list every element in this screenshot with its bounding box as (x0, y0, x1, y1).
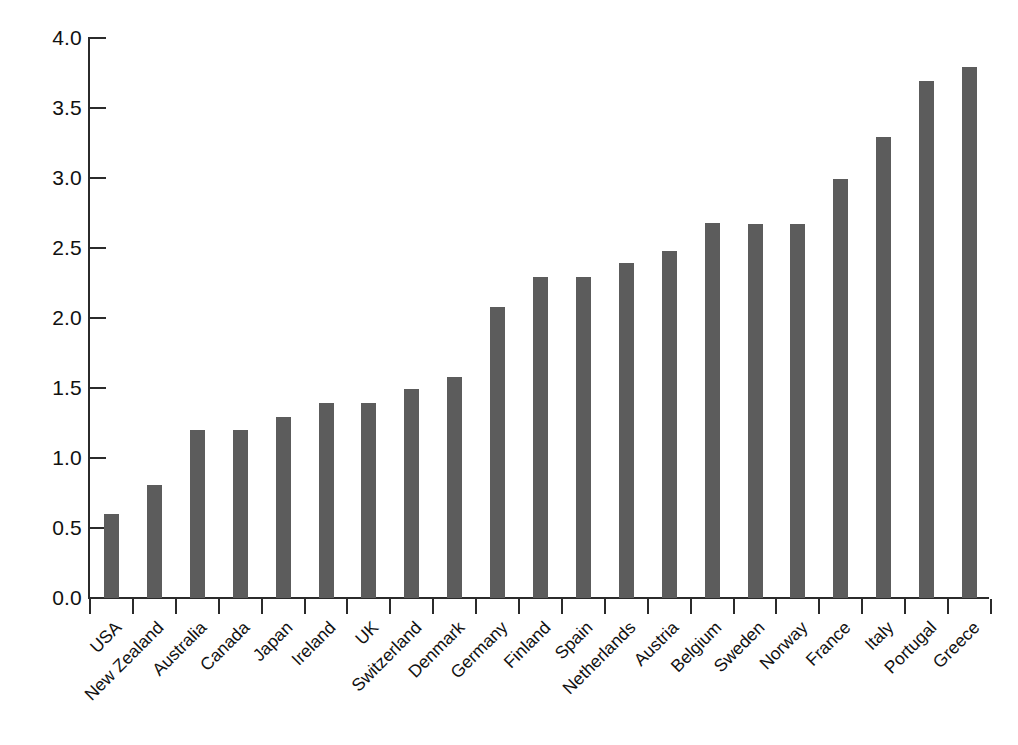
x-tick-mark (647, 599, 649, 614)
bar (276, 417, 291, 598)
bar (833, 179, 848, 598)
bar-chart: 0.00.51.01.52.02.53.03.54.0 USANew Zeala… (0, 0, 1018, 745)
y-tick-label: 3.0 (36, 167, 82, 188)
x-tick-mark (990, 599, 992, 614)
bar (876, 137, 891, 598)
bar (233, 430, 248, 598)
y-tick-mark (89, 457, 106, 459)
y-tick-label: 1.5 (36, 377, 82, 398)
y-tick-label: 2.5 (36, 237, 82, 258)
x-tick-mark (818, 599, 820, 614)
x-tick-mark (432, 599, 434, 614)
x-tick-mark (518, 599, 520, 614)
y-tick-label: 1.0 (36, 447, 82, 468)
bar (619, 263, 634, 598)
y-tick-label: 4.0 (36, 27, 82, 48)
bar (447, 377, 462, 598)
bar (662, 251, 677, 598)
x-tick-mark (604, 599, 606, 614)
x-tick-mark (218, 599, 220, 614)
x-tick-mark (733, 599, 735, 614)
y-tick-mark (89, 317, 106, 319)
x-tick-mark (904, 599, 906, 614)
y-tick-mark (89, 247, 106, 249)
bar (533, 277, 548, 598)
y-tick-label: 3.5 (36, 97, 82, 118)
x-tick-mark (304, 599, 306, 614)
x-tick-mark (561, 599, 563, 614)
y-tick-mark (89, 387, 106, 389)
bar (190, 430, 205, 598)
bar (705, 223, 720, 598)
y-tick-label: 0.0 (36, 587, 82, 608)
bar (361, 403, 376, 598)
x-tick-mark (132, 599, 134, 614)
bar (404, 389, 419, 598)
y-tick-label: 2.0 (36, 307, 82, 328)
bar (962, 67, 977, 598)
bar (919, 81, 934, 598)
y-tick-mark (89, 107, 106, 109)
x-tick-mark (775, 599, 777, 614)
x-tick-mark (861, 599, 863, 614)
x-tick-mark (947, 599, 949, 614)
x-tick-mark (389, 599, 391, 614)
x-tick-mark (346, 599, 348, 614)
y-tick-mark (89, 177, 106, 179)
bar (790, 224, 805, 598)
x-tick-mark (89, 599, 91, 614)
x-tick-mark (261, 599, 263, 614)
x-tick-mark (175, 599, 177, 614)
y-tick-label: 0.5 (36, 517, 82, 538)
x-tick-mark (690, 599, 692, 614)
bar (748, 224, 763, 598)
bar (490, 307, 505, 598)
x-tick-mark (475, 599, 477, 614)
bar (104, 514, 119, 598)
bar (319, 403, 334, 598)
y-tick-mark (89, 37, 106, 39)
bar (147, 485, 162, 598)
bar (576, 277, 591, 598)
